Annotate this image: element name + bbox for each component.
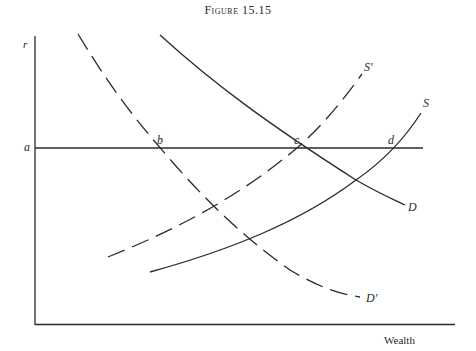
curve-D-prime (78, 34, 360, 297)
curve-label-S: S (423, 96, 429, 111)
curve-S-prime (108, 74, 362, 257)
level-label-a: a (24, 140, 30, 155)
point-label-b: b (157, 133, 163, 148)
curve-label-D-prime: D′ (366, 291, 377, 306)
y-axis-label: r (23, 38, 27, 50)
curve-label-D: D (408, 200, 417, 215)
x-axis-label: Wealth (384, 334, 415, 346)
point-label-c: c (294, 133, 299, 148)
curve-label-S-prime: S′ (364, 60, 373, 75)
point-label-d: d (388, 133, 394, 148)
diagram-canvas (0, 0, 476, 351)
